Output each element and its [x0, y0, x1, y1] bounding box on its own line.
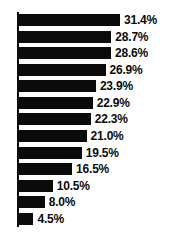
bar-value-label: 23.9% [100, 80, 133, 92]
bar-value-label: 21.0% [91, 130, 124, 142]
bar-value-label: 19.5% [86, 147, 119, 159]
bar-value-label: 26.9% [110, 64, 143, 76]
bar-row: 16.5% [19, 161, 170, 178]
bar-row: 8.0% [19, 194, 170, 211]
bar-row: 28.6% [19, 45, 170, 62]
bar-value-label: 8.0% [49, 196, 76, 208]
bar-row: 10.5% [19, 177, 170, 194]
bar [19, 14, 120, 26]
bar [19, 147, 82, 159]
bar-value-label: 31.4% [124, 14, 157, 26]
bar-value-label: 22.9% [97, 97, 130, 109]
bar [19, 180, 53, 192]
bar [19, 97, 93, 109]
bar [19, 80, 96, 92]
bar [19, 64, 106, 76]
bar-row: 22.3% [19, 111, 170, 128]
bar-value-label: 16.5% [76, 163, 109, 175]
horizontal-bar-chart: 31.4%28.7%28.6%26.9%23.9%22.9%22.3%21.0%… [0, 0, 170, 238]
bar [19, 196, 45, 208]
bar [19, 213, 33, 225]
bar [19, 163, 72, 175]
bar-row: 28.7% [19, 29, 170, 46]
bar-row: 22.9% [19, 95, 170, 112]
bar-row: 21.0% [19, 128, 170, 145]
bar-value-label: 28.7% [115, 31, 148, 43]
bar-value-label: 4.5% [37, 213, 64, 225]
bar-value-label: 22.3% [95, 113, 128, 125]
bar-row: 4.5% [19, 210, 170, 227]
bar-row: 19.5% [19, 144, 170, 161]
bar-value-label: 10.5% [57, 180, 90, 192]
bar-value-label: 28.6% [115, 47, 148, 59]
bar [19, 130, 87, 142]
bar [19, 113, 91, 125]
bar-series: 31.4%28.7%28.6%26.9%23.9%22.9%22.3%21.0%… [19, 12, 170, 227]
bar [19, 47, 111, 59]
bar [19, 31, 111, 43]
bar-row: 31.4% [19, 12, 170, 29]
bar-row: 23.9% [19, 78, 170, 95]
bar-row: 26.9% [19, 62, 170, 79]
